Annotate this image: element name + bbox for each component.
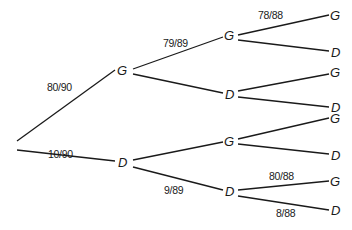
node-d1: D: [118, 155, 127, 170]
leaf-d1d-d: D: [331, 203, 340, 218]
edge-d1-d1g: [133, 142, 223, 160]
label-d1-d1d: 9/89: [164, 184, 184, 196]
label-d1d-d: 8/88: [276, 207, 296, 219]
label-d1d-g: 80/88: [269, 170, 294, 182]
edge-g1d-d: [238, 97, 329, 107]
label-g1-g1g: 79/89: [163, 37, 188, 49]
edge-d1g-g: [238, 118, 329, 139]
node-g1: G: [117, 63, 127, 78]
node-g1g: G: [224, 28, 234, 43]
edge-g1d-g: [238, 74, 329, 91]
edge-d1g-d: [238, 144, 329, 154]
label-root-g1: 80/90: [47, 81, 72, 93]
node-d1g: G: [224, 134, 234, 149]
leaf-g1g-d: D: [331, 45, 340, 60]
leaf-d1g-g: G: [330, 111, 340, 126]
edge-g1g-g: [238, 15, 329, 35]
edge-g1g-d: [238, 40, 329, 51]
leaf-g1d-g: G: [330, 65, 340, 80]
edge-d1d-g: [238, 181, 329, 190]
node-g1d: D: [225, 87, 234, 102]
node-d1d: D: [225, 184, 234, 199]
leaf-g1g-g: G: [330, 8, 340, 23]
leaf-d1g-d: D: [331, 148, 340, 163]
edge-g1-g1d: [133, 74, 223, 93]
label-root-d1: 10/90: [48, 148, 73, 160]
label-g1g-g: 78/88: [258, 9, 283, 21]
probability-tree-diagram: G D G D G D G D G D G D G D 80/90 10/90 …: [0, 0, 352, 230]
leaf-d1d-g: G: [330, 174, 340, 189]
